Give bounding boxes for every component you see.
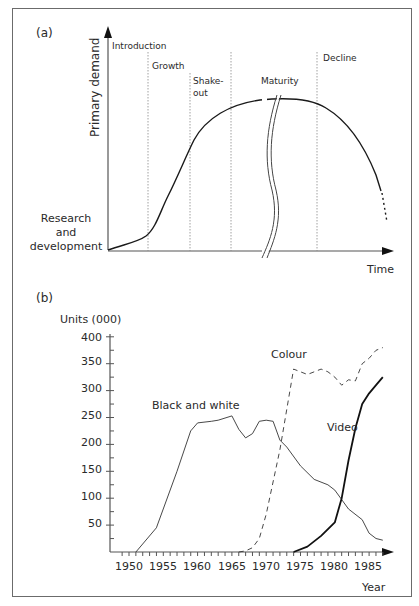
y-tick-label: 200 (81, 436, 102, 449)
x-tick-label: 1975 (286, 560, 314, 573)
series-lines-b (136, 348, 383, 552)
series-line-video (294, 377, 383, 552)
chart-tv-units: (b) Units (000) Year 50 100 150 200 250 … (0, 0, 419, 606)
y-tick-label: 400 (81, 331, 102, 344)
x-tick-label: 1960 (183, 560, 211, 573)
x-tick-label: 1950 (115, 560, 143, 573)
series-label-black-and-white: Black and white (152, 399, 240, 412)
x-tick-label: 1970 (252, 560, 280, 573)
y-tick-label: 100 (81, 490, 102, 503)
y-axis-title: Units (000) (60, 313, 121, 326)
x-tick-label: 1985 (354, 560, 382, 573)
x-tick-label: 1955 (149, 560, 177, 573)
x-tick-label: 1965 (218, 560, 246, 573)
x-axis-title: Year (361, 581, 386, 594)
panel-b-label: (b) (36, 291, 53, 305)
series-line-colour (239, 348, 383, 552)
y-tick-label: 150 (81, 463, 102, 476)
x-tick-label: 1980 (320, 560, 348, 573)
y-tick-label: 50 (88, 517, 102, 530)
tick-labels-b: 50 100 150 200 250 300 350 400 1950 1955… (81, 331, 382, 573)
series-label-colour: Colour (271, 348, 307, 361)
series-label-video: Video (327, 421, 358, 434)
y-tick-label: 300 (81, 382, 102, 395)
y-tick-label: 350 (81, 355, 102, 368)
y-tick-label: 250 (81, 409, 102, 422)
series-line-black-and-white (136, 416, 383, 552)
x-axis-arrow-icon (382, 548, 394, 556)
axes-b (106, 334, 394, 556)
